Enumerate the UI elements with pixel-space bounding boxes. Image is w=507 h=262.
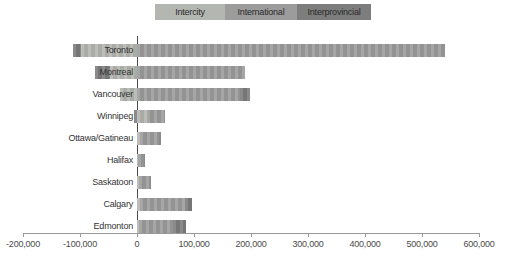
x-axis-tick-label: -200,000 [6,239,40,249]
x-axis-tick [308,233,309,237]
bar-segment-intercity [137,110,147,123]
bar-segment-international [140,132,159,145]
x-axis-tick-label: 400,000 [349,239,380,249]
bar-segment-international [137,66,245,79]
category-label: Winnipeg [23,110,135,123]
legend-label: International [238,7,285,17]
bar-row: Vancouver [23,88,479,101]
bar-row: Montreal [23,66,479,79]
legend-item: Interprovincial [297,4,371,20]
x-axis-tick [23,233,24,237]
bar-segment-international [147,110,165,123]
legend-label: Intercity [175,7,205,17]
x-axis-tick [422,233,423,237]
bar-segment-interprovincial [185,198,192,211]
bar-row: Saskatoon [23,176,479,189]
bar-segment-interprovincial [173,220,186,233]
x-axis-tick-label: 500,000 [406,239,437,249]
bar-segment-interprovincial [150,176,151,189]
legend: IntercityInternationalInterprovincial [155,4,371,20]
category-label: Vancouver [23,88,135,101]
bar-segment-interprovincial [144,154,145,167]
migration-stacked-bar-chart: IntercityInternationalInterprovincial -2… [0,0,507,262]
x-axis-tick-label: -100,000 [63,239,97,249]
bar-segment-international [137,44,445,57]
x-axis-tick-label: 200,000 [235,239,266,249]
x-axis-tick-label: 600,000 [463,239,494,249]
bar-segment-international [140,198,185,211]
x-axis-tick [80,233,81,237]
x-axis-tick [137,233,138,237]
x-axis-tick-label: 100,000 [178,239,209,249]
bar-segment-international [139,176,150,189]
category-label: Toronto [23,44,135,57]
category-label: Edmonton [23,220,135,233]
bar-row: Toronto [23,44,479,57]
bar-row: Calgary [23,198,479,211]
category-label: Calgary [23,198,135,211]
x-axis-tick-label: 0 [135,239,140,249]
category-label: Montreal [23,66,135,79]
bar-segment-international [137,88,240,101]
category-label: Saskatoon [23,176,135,189]
x-axis-tick [194,233,195,237]
bar-row: Halifax [23,154,479,167]
x-axis-tick [365,233,366,237]
bar-segment-interprovincial [240,88,250,101]
bar-segment-international [139,220,173,233]
legend-item: International [225,4,297,20]
plot-area: -200,000-100,0000100,000200,000300,00040… [23,36,479,234]
legend-label: Interprovincial [307,7,360,17]
x-axis-tick [251,233,252,237]
bar-row: Winnipeg [23,110,479,123]
legend-item: Intercity [155,4,225,20]
category-label: Halifax [23,154,135,167]
x-axis-tick-label: 300,000 [292,239,323,249]
category-label: Ottawa/Gatineau [23,132,135,145]
bar-segment-interprovincial [159,132,161,145]
bar-row: Ottawa/Gatineau [23,132,479,145]
x-axis-tick [479,233,480,237]
bar-row: Edmonton [23,220,479,233]
